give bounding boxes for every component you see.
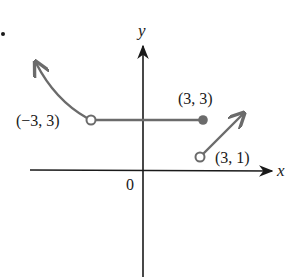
left-curve: [36, 63, 87, 118]
label-point-left: (−3, 3): [16, 112, 60, 130]
open-point-right: [196, 153, 205, 162]
label-point-middle: (3, 3): [178, 90, 213, 108]
stray-dot: [1, 32, 5, 36]
x-axis: [30, 170, 272, 171]
closed-point-middle: [198, 115, 208, 125]
y-axis-label: y: [136, 21, 146, 40]
right-ray: [203, 114, 243, 154]
origin-label: 0: [126, 176, 134, 193]
label-point-right: (3, 1): [215, 149, 250, 167]
x-axis-label: x: [276, 161, 285, 180]
open-point-left: [87, 116, 96, 125]
piecewise-function-graph: y x 0 (−3, 3) (3, 3) (3, 1): [0, 0, 292, 279]
